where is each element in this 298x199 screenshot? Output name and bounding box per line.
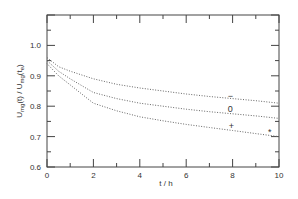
annotation-marker: − bbox=[228, 91, 233, 101]
x-tick-label: 0 bbox=[45, 171, 50, 180]
x-axis-label: t / h bbox=[159, 179, 172, 188]
y-tick-label: 1.0 bbox=[30, 41, 42, 50]
series-markers: −0+* bbox=[228, 91, 272, 137]
x-tick-label: 4 bbox=[138, 171, 143, 180]
y-tick-label: 0.6 bbox=[30, 163, 42, 172]
annotation-marker: * bbox=[268, 127, 272, 137]
y-tick-label: 0.9 bbox=[30, 72, 42, 81]
x-tick-label: 2 bbox=[91, 171, 96, 180]
y-tick-label: 0.7 bbox=[30, 133, 42, 142]
y-tick-labels: 0.60.70.80.91.0 bbox=[30, 41, 42, 172]
annotation-marker: 0 bbox=[228, 104, 233, 114]
x-tick-label: 8 bbox=[230, 171, 235, 180]
data-curves bbox=[47, 58, 279, 137]
chart: 0246810 0.60.70.80.91.0 −0+* t / h Umg(t… bbox=[0, 0, 298, 199]
annotation-marker: + bbox=[229, 121, 234, 131]
curve-series-1 bbox=[47, 61, 279, 119]
curve-series-0 bbox=[47, 58, 279, 104]
x-tick-label: 6 bbox=[184, 171, 189, 180]
y-tick-label: 0.8 bbox=[30, 102, 42, 111]
y-axis-label: Umg(t) / Umg(te) bbox=[15, 64, 25, 118]
x-tick-label: 10 bbox=[275, 171, 284, 180]
